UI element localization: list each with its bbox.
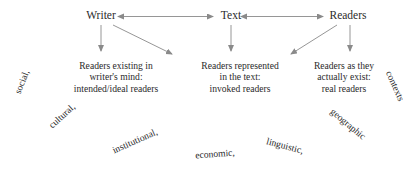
node-text-label: Text [221, 9, 241, 21]
description-intended-readers: Readers existing in writer's mind: inten… [74, 60, 158, 94]
description-line: Readers existing in [74, 60, 158, 71]
arrow-readers-diagonal [291, 25, 337, 54]
node-text[interactable]: Text [221, 9, 241, 22]
description-real-readers: Readers as they actually exist: real rea… [314, 60, 374, 94]
description-line: actually exist: [314, 71, 374, 82]
description-line: invoked readers [201, 83, 279, 94]
description-invoked-readers: Readers represented in the text: invoked… [201, 60, 279, 94]
description-line: Readers represented [201, 60, 279, 71]
description-line: intended/ideal readers [74, 83, 158, 94]
node-writer-label: Writer [86, 9, 116, 21]
node-readers-label: Readers [329, 9, 366, 21]
description-line: writer's mind: [74, 71, 158, 82]
description-line: in the text: [201, 71, 279, 82]
diagram-canvas: Writer Text Readers Readers existing in … [0, 0, 414, 170]
node-readers[interactable]: Readers [329, 9, 366, 22]
node-writer[interactable]: Writer [86, 9, 116, 22]
description-line: real readers [314, 83, 374, 94]
arrow-writer-diagonal [113, 25, 172, 54]
description-line: Readers as they [314, 60, 374, 71]
